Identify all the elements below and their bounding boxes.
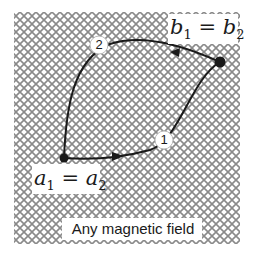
end-label-sub-1: 1	[183, 27, 191, 42]
start-label-base-1: a	[34, 166, 47, 190]
start-label-sub-2: 2	[98, 178, 106, 193]
path-2-marker-label: 2	[90, 36, 108, 54]
end-label-base-1: b	[170, 15, 183, 39]
start-label-equals: =	[62, 166, 80, 190]
end-point-b	[215, 57, 226, 68]
path-1-marker-label: 1	[155, 131, 173, 149]
end-label-sub-2: 2	[236, 27, 244, 42]
end-label-base-2: b	[223, 15, 236, 39]
region-label: Any magnetic field	[64, 218, 202, 240]
diagram-canvas: 2 1 b1 = b2 a1 = a2 Any magnetic field	[0, 0, 256, 260]
end-point-label: b1 = b2	[170, 14, 244, 48]
start-label-sub-1: 1	[47, 178, 55, 193]
end-label-equals: =	[198, 15, 216, 39]
start-point-label: a1 = a2	[34, 165, 107, 199]
start-label-base-2: a	[86, 166, 99, 190]
start-point-a	[60, 154, 69, 163]
